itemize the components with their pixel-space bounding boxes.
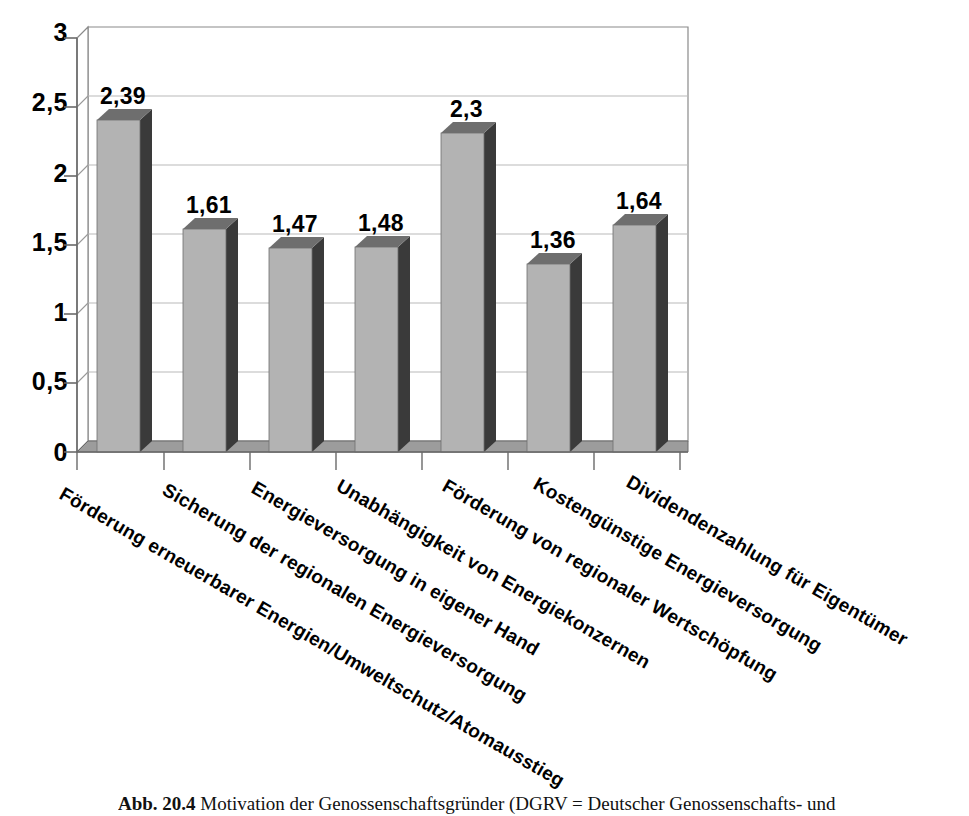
figure-page: 3 2,5 2 1,5 1 0,5 0 <box>0 0 969 816</box>
bar-side-face <box>398 236 410 452</box>
bar-value-label: 1,36 <box>530 229 576 252</box>
bar-side-face <box>226 218 238 452</box>
bar-column[interactable] <box>269 237 324 452</box>
bar-column[interactable] <box>613 214 668 452</box>
bar-front-face <box>527 264 570 452</box>
bar-side-face <box>570 253 582 452</box>
bar-side-face <box>312 237 324 452</box>
bar-value-label: 1,64 <box>616 190 662 213</box>
bar-value-label: 1,47 <box>272 213 318 236</box>
x-axis-category-labels: Förderung erneuerbarer Energien/Umweltsc… <box>0 462 969 762</box>
bar-value-label: 1,48 <box>358 212 404 235</box>
bar-value-label: 2,3 <box>450 98 483 121</box>
bar-side-face <box>140 109 152 452</box>
bar-value-label: 1,61 <box>186 194 232 217</box>
bar-column[interactable] <box>441 122 496 452</box>
y-axis-ticks <box>64 38 77 452</box>
bar-front-face <box>269 248 312 452</box>
bar-chart: 3 2,5 2 1,5 1 0,5 0 <box>0 0 969 760</box>
bar-column[interactable] <box>183 218 238 452</box>
bar-column[interactable] <box>355 236 410 452</box>
bar-column[interactable] <box>527 253 582 452</box>
bar-front-face <box>355 247 398 452</box>
bar-side-face <box>484 122 496 452</box>
figure-caption: Abb. 20.4 Motivation der Genossenschafts… <box>118 791 958 816</box>
bar-side-face <box>656 214 668 452</box>
bar-front-face <box>97 120 140 452</box>
figure-number: Abb. 20.4 <box>118 793 196 814</box>
figure-caption-text: Motivation der Genossenschaftsgründer (D… <box>200 793 835 814</box>
bar-front-face <box>613 225 656 452</box>
bar-column[interactable] <box>97 109 152 452</box>
bar-front-face <box>441 133 484 452</box>
bar-value-label: 2,39 <box>100 85 146 108</box>
bar-front-face <box>183 229 226 452</box>
